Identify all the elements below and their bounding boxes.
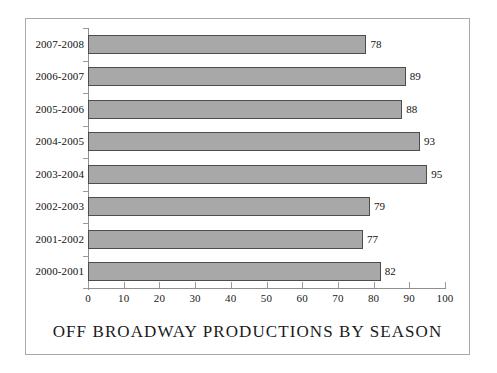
x-axis-tick — [445, 282, 446, 288]
bar — [88, 35, 366, 54]
y-axis-tick — [83, 223, 88, 224]
x-axis-tick-label: 40 — [211, 292, 251, 304]
category-label: 2004-2005 — [14, 135, 84, 147]
x-axis-tick-label: 70 — [318, 292, 358, 304]
y-axis-tick — [83, 126, 88, 127]
category-label: 2000-2001 — [14, 265, 84, 277]
x-axis-line — [88, 288, 446, 289]
category-label: 2002-2003 — [14, 200, 84, 212]
x-axis-tick — [159, 282, 160, 288]
category-label: 2006-2007 — [14, 70, 84, 82]
x-axis-tick-label: 60 — [282, 292, 322, 304]
x-axis-tick-label: 80 — [354, 292, 394, 304]
x-axis-tick — [88, 282, 89, 288]
y-axis-tick — [83, 191, 88, 192]
bar — [88, 67, 406, 86]
x-axis-tick — [231, 282, 232, 288]
category-axis-labels: 2000-20012001-20022002-20032003-20042004… — [10, 0, 84, 373]
y-axis-tick — [83, 288, 88, 289]
bar-value-label: 79 — [374, 200, 385, 212]
bar — [88, 165, 427, 184]
chart-figure: 2000-20012001-20022002-20032003-20042004… — [0, 0, 497, 373]
bar-value-label: 95 — [431, 168, 442, 180]
x-axis-tick-label: 0 — [68, 292, 108, 304]
bar-value-label: 88 — [406, 103, 417, 115]
bar-value-label: 77 — [367, 233, 378, 245]
y-axis-tick — [83, 28, 88, 29]
bar — [88, 230, 363, 249]
x-axis-tick — [124, 282, 125, 288]
category-label: 2007-2008 — [14, 38, 84, 50]
x-axis-tick-label: 20 — [139, 292, 179, 304]
bar — [88, 100, 402, 119]
x-axis-tick-label: 30 — [175, 292, 215, 304]
chart-title: OFF BROADWAY PRODUCTIONS BY SEASON — [25, 322, 470, 342]
category-label: 2001-2002 — [14, 233, 84, 245]
bar-value-label: 78 — [370, 38, 381, 50]
bar — [88, 132, 420, 151]
y-axis-tick — [83, 158, 88, 159]
y-axis-tick — [83, 61, 88, 62]
category-label: 2003-2004 — [14, 168, 84, 180]
bar-value-label: 82 — [385, 265, 396, 277]
x-axis-tick — [195, 282, 196, 288]
x-axis-tick — [374, 282, 375, 288]
bar-value-label: 89 — [410, 70, 421, 82]
x-axis-tick-label: 10 — [104, 292, 144, 304]
bar — [88, 262, 381, 281]
x-axis-tick-label: 50 — [247, 292, 287, 304]
x-axis-tick — [409, 282, 410, 288]
bar — [88, 197, 370, 216]
x-axis-tick — [302, 282, 303, 288]
x-axis-tick — [338, 282, 339, 288]
y-axis-tick — [83, 256, 88, 257]
x-axis-tick-label: 90 — [389, 292, 429, 304]
y-axis-tick — [83, 93, 88, 94]
category-label: 2005-2006 — [14, 103, 84, 115]
bar-value-label: 93 — [424, 135, 435, 147]
x-axis-tick — [267, 282, 268, 288]
x-axis-tick-label: 100 — [425, 292, 465, 304]
